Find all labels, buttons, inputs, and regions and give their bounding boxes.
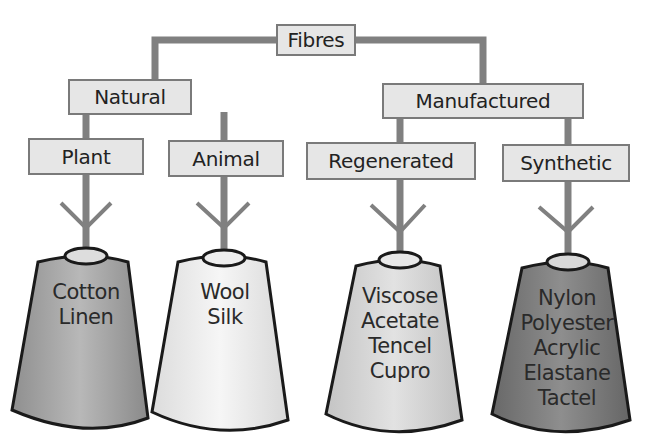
fibre-label: Silk [170,305,280,330]
subcategory-box-plant: Plant [28,138,144,175]
subcategory-label: Plant [62,145,111,169]
thread-forks [61,203,593,232]
spool-regenerated-fibres: Viscose Acetate Tencel Cupro [340,284,460,384]
subcategory-label: Synthetic [520,151,612,175]
spool-animal-fibres: Wool Silk [170,280,280,330]
fibre-label: Nylon [502,286,632,311]
fibre-label: Cotton [30,280,142,305]
subcategory-box-animal: Animal [168,140,284,177]
category-label: Natural [94,85,166,109]
fibre-label: Tencel [340,334,460,359]
fibre-label: Wool [170,280,280,305]
subcategory-box-regenerated: Regenerated [306,142,476,180]
spool-animal-shape [152,250,288,430]
spool-synthetic-fibres: Nylon Polyester Acrylic Elastane Tactel [502,286,632,411]
subcategory-box-synthetic: Synthetic [502,144,630,182]
root-box-fibres: Fibres [276,24,356,56]
spool-plant-fibres: Cotton Linen [30,280,142,330]
fibre-label: Acrylic [502,336,632,361]
fibre-label: Acetate [340,309,460,334]
subcategory-label: Regenerated [328,149,453,173]
fibre-label: Cupro [340,359,460,384]
root-label: Fibres [287,28,344,52]
fibre-label: Elastane [502,361,632,386]
category-label: Manufactured [416,89,551,113]
category-box-natural: Natural [68,79,192,115]
fibre-label: Viscose [340,284,460,309]
fibre-label: Polyester [502,311,632,336]
fibre-label: Tactel [502,386,632,411]
spool-plant-shape [12,248,148,428]
fibre-label: Linen [30,305,142,330]
category-box-manufactured: Manufactured [382,83,584,119]
subcategory-label: Animal [192,147,259,171]
